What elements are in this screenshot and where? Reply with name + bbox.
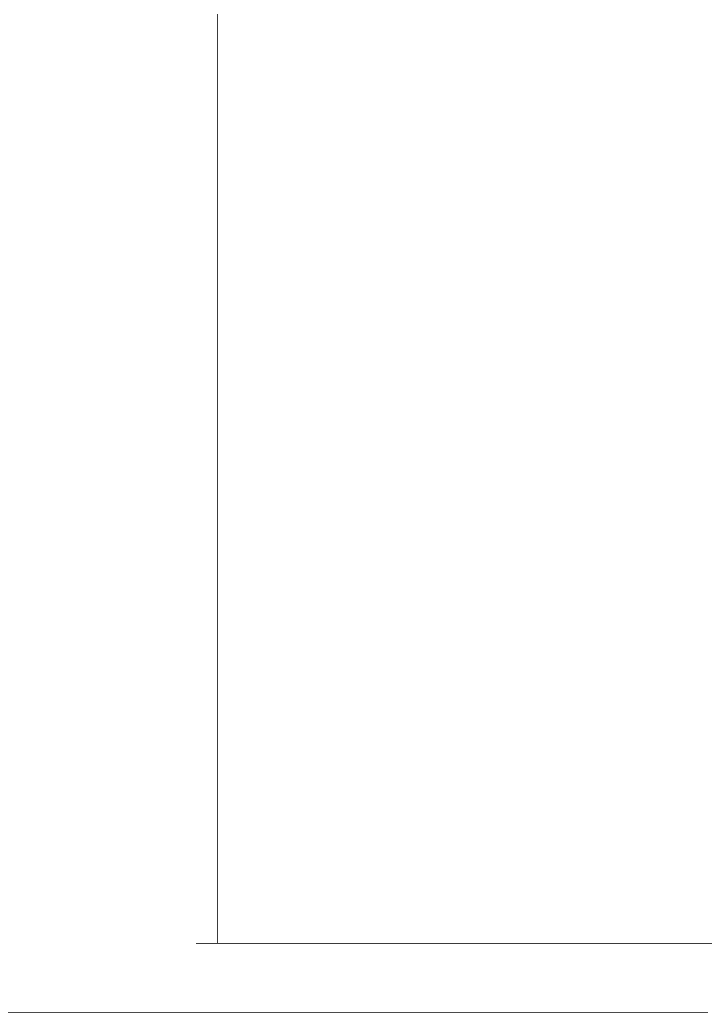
footer-divider bbox=[8, 1012, 708, 1013]
x-axis-line bbox=[196, 943, 712, 944]
y-axis-line bbox=[217, 14, 218, 944]
criminal-procedural-rights-bar-chart bbox=[0, 0, 716, 1030]
plot-area bbox=[0, 0, 716, 960]
